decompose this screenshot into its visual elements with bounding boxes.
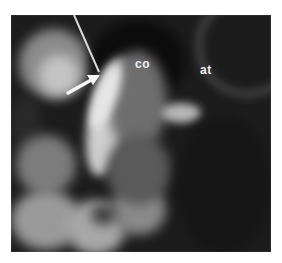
label-condyle: co (135, 58, 150, 70)
needle (74, 15, 99, 72)
radiograph-image: co at (11, 15, 271, 252)
annotation-overlay (11, 15, 271, 252)
arrow-shaft (68, 79, 93, 93)
label-articular-tubercle: at (200, 64, 212, 76)
